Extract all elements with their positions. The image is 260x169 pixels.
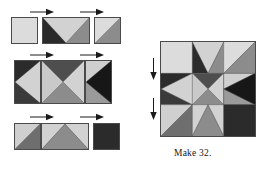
flying-geese-up (41, 123, 89, 150)
press-arrow-right-top-1 (30, 8, 54, 15)
middle-row-group (0, 48, 132, 106)
press-arrow-down-block-2 (150, 98, 157, 120)
figure-canvas: Make 32. (0, 0, 260, 169)
corner-square-dark (93, 123, 120, 150)
half-square-triangle-light-medium (94, 17, 121, 44)
finished-block (160, 41, 256, 137)
block-caption: Make 32. (174, 148, 211, 158)
flying-geese-down (42, 17, 90, 44)
finished-block-group: Make 32. (148, 38, 260, 169)
press-arrow-right-middle-2 (80, 51, 104, 58)
press-arrow-right-middle-1 (30, 51, 54, 58)
press-arrow-right-top-2 (80, 8, 104, 15)
top-row-group (0, 0, 132, 46)
press-arrow-right-bottom-1 (30, 113, 54, 120)
flying-geese-left (85, 60, 112, 104)
corner-square-light (11, 17, 38, 44)
press-arrow-right-bottom-2 (80, 113, 104, 120)
quarter-square-triangle-center (41, 60, 85, 104)
press-arrow-down-block-1 (150, 58, 157, 80)
bottom-row-group (0, 110, 132, 155)
flying-geese-right (14, 60, 41, 104)
half-square-triangle-light-dark (14, 123, 41, 150)
